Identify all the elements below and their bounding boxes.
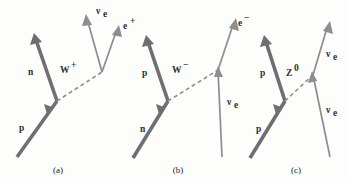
panel-c-neutrino-in-label-sub: e xyxy=(333,108,337,118)
panel-b-proton-arrowhead xyxy=(142,35,154,47)
feynman-figure: p n W + ν e e + (a) xyxy=(0,0,350,183)
panel-b-caption: (b) xyxy=(173,165,184,175)
panel-c-neutrino-in-label-text: ν xyxy=(325,105,331,115)
panel-c-neutrino-in-line xyxy=(313,75,330,157)
panel-b-antineutrino-line xyxy=(218,70,222,157)
panel-b-antineutrino-label: ν e xyxy=(226,97,238,110)
panel-c-proton-out-label: p xyxy=(260,68,265,78)
panel-a-neutrino-label-text: ν xyxy=(95,6,101,16)
panel-a-boson-label-text: W xyxy=(60,65,70,75)
panel-a-positron-arrowhead xyxy=(112,25,122,37)
panel-b-antineutrino-arrowhead xyxy=(214,66,223,77)
panel-c-neutrino-in-arrowhead xyxy=(308,71,317,83)
panel-b-proton-line xyxy=(148,42,168,101)
panel-c-neutrino-out-label-sub: e xyxy=(333,52,337,62)
panel-b: n p W − e − ν e (b) xyxy=(133,13,249,175)
panel-a-neutrino-arrowhead xyxy=(82,14,92,26)
panel-c-boson-label-charge: 0 xyxy=(294,63,299,73)
panel-a-positron-label-charge: + xyxy=(130,16,135,26)
panel-c-proton-in-label: p xyxy=(256,124,261,134)
panel-b-boson-label-text: W xyxy=(172,65,182,75)
diagram-canvas: p n W + ν e e + (a) xyxy=(0,0,350,183)
panel-a-positron-line xyxy=(102,32,116,72)
panel-a-w-boson-line xyxy=(57,72,102,101)
panel-a-positron-label: e + xyxy=(123,16,135,31)
panel-b-antineutrino-label-sub: e xyxy=(234,100,238,110)
panel-c-neutrino-in-label: ν e xyxy=(325,105,337,118)
panel-a-neutrino-line xyxy=(88,22,102,72)
panel-a-proton-label: p xyxy=(19,123,24,133)
panel-a-neutron-line xyxy=(36,40,57,101)
panel-b-proton-label: p xyxy=(142,68,147,78)
panel-c: p p Z 0 ν e ν e (c) xyxy=(250,21,337,175)
panel-b-neutron-label: n xyxy=(140,124,146,134)
panel-a-neutrino-label-sub: e xyxy=(103,9,107,19)
panel-a-boson-label: W + xyxy=(60,60,76,75)
panel-c-proton-out-line xyxy=(266,42,285,101)
panel-a-neutron-label: n xyxy=(28,67,34,77)
panel-c-proton-out-arrowhead xyxy=(260,35,272,47)
panel-a-neutrino-label: ν e xyxy=(95,6,107,19)
panel-b-neutron-line xyxy=(133,101,168,158)
panel-b-antineutrino-label-text: ν xyxy=(226,97,232,107)
panel-b-boson-label-charge: − xyxy=(183,60,188,70)
panel-b-electron-line xyxy=(218,25,233,70)
panel-b-electron-label: e − xyxy=(238,13,249,28)
panel-c-neutrino-out-line xyxy=(313,28,327,75)
panel-b-electron-label-charge: − xyxy=(244,13,249,23)
panel-a-neutron-arrowhead xyxy=(30,33,42,45)
panel-c-boson-label-text: Z xyxy=(286,68,292,78)
panel-c-neutrino-out-label-text: ν xyxy=(325,49,331,59)
panel-c-neutrino-out-arrowhead xyxy=(323,21,333,34)
panel-a-positron-label-text: e xyxy=(123,21,127,31)
panel-c-z-boson-line xyxy=(285,75,313,101)
panel-c-neutrino-out-label: ν e xyxy=(325,49,337,62)
panel-b-boson-label: W − xyxy=(172,60,188,75)
panel-b-electron-label-text: e xyxy=(238,18,242,28)
panel-a-boson-label-charge: + xyxy=(71,60,76,70)
panel-a-caption: (a) xyxy=(53,165,63,175)
panel-a: p n W + ν e e + (a) xyxy=(17,6,135,175)
panel-c-boson-label: Z 0 xyxy=(286,63,299,78)
panel-c-caption: (c) xyxy=(291,165,301,175)
